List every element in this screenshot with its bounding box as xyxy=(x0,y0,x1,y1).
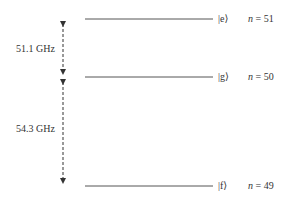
n-symbol: n xyxy=(248,13,253,24)
ket-f: |f⟩ xyxy=(218,180,227,192)
ket-g: |g⟩ xyxy=(218,71,229,83)
n-value: = 50 xyxy=(256,71,274,82)
n-symbol: n xyxy=(248,71,253,82)
quantum-number-g: n = 50 xyxy=(248,71,274,83)
diagram-canvas xyxy=(0,0,292,200)
quantum-number-f: n = 49 xyxy=(248,180,274,192)
quantum-number-e: n = 51 xyxy=(248,13,274,25)
ket-e: |e⟩ xyxy=(218,13,228,25)
transition-label-g-f: 54.3 GHz xyxy=(16,123,55,135)
n-value: = 49 xyxy=(256,180,274,191)
n-value: = 51 xyxy=(256,13,274,24)
n-symbol: n xyxy=(248,180,253,191)
transition-label-e-g: 51.1 GHz xyxy=(16,43,55,55)
